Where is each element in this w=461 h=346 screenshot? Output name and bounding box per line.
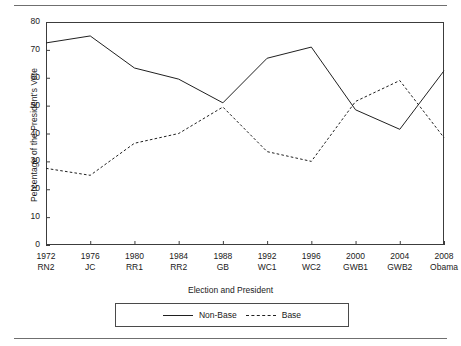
y-tick-label: 60	[14, 73, 40, 82]
y-tick-label: 20	[14, 184, 40, 193]
x-tick-president: RR1	[111, 262, 157, 273]
x-tick-president: WC2	[288, 262, 334, 273]
line-chart-figure: Percentage of the President's Vote 01020…	[0, 0, 461, 346]
x-tick-label: 1984RR2	[156, 251, 202, 273]
series-line-base	[46, 81, 444, 176]
x-tick-label: 1988GB	[200, 251, 246, 273]
x-tick-year: 1976	[67, 251, 113, 262]
series-line-non-base	[46, 36, 444, 129]
y-tick-label: 70	[14, 45, 40, 54]
x-tick-president: RR2	[156, 262, 202, 273]
x-tick-label: 1976JC	[67, 251, 113, 273]
x-tick-year: 1992	[244, 251, 290, 262]
x-tick-year: 1988	[200, 251, 246, 262]
chart-legend: Non-Base Base	[115, 303, 349, 327]
y-tick-label: 30	[14, 156, 40, 165]
x-tick-label: 1972RN2	[23, 251, 69, 273]
x-tick-label: 1992WC1	[244, 251, 290, 273]
x-tick-year: 2008	[421, 251, 461, 262]
legend-label-base: Base	[282, 310, 301, 320]
x-tick-year: 1980	[111, 251, 157, 262]
x-tick-year: 2000	[333, 251, 379, 262]
x-tick-president: RN2	[23, 262, 69, 273]
y-tick-label: 40	[14, 129, 40, 138]
x-tick-president: Obama	[421, 262, 461, 273]
legend-line-dashed-icon	[246, 315, 276, 316]
x-tick-president: GWB1	[333, 262, 379, 273]
x-tick-label: 1996WC2	[288, 251, 334, 273]
x-tick-president: WC1	[244, 262, 290, 273]
x-tick-year: 2004	[377, 251, 423, 262]
legend-line-solid-icon	[163, 315, 193, 316]
y-tick-label: 0	[14, 240, 40, 249]
x-tick-year: 1996	[288, 251, 334, 262]
legend-label-non-base: Non-Base	[199, 310, 237, 320]
y-tick-label: 50	[14, 101, 40, 110]
x-tick-year: 1984	[156, 251, 202, 262]
x-tick-president: GB	[200, 262, 246, 273]
x-tick-label: 1980RR1	[111, 251, 157, 273]
y-tick-label: 80	[14, 17, 40, 26]
x-tick-year: 1972	[23, 251, 69, 262]
x-tick-president: JC	[67, 262, 113, 273]
legend-entry-base: Base	[246, 310, 301, 320]
x-tick-label: 2004GWB2	[377, 251, 423, 273]
x-tick-label: 2000GWB1	[333, 251, 379, 273]
x-axis-title: Election and President	[0, 285, 461, 295]
legend-entry-non-base: Non-Base	[163, 310, 237, 320]
y-tick-label: 10	[14, 212, 40, 221]
x-tick-label: 2008Obama	[421, 251, 461, 273]
x-tick-president: GWB2	[377, 262, 423, 273]
